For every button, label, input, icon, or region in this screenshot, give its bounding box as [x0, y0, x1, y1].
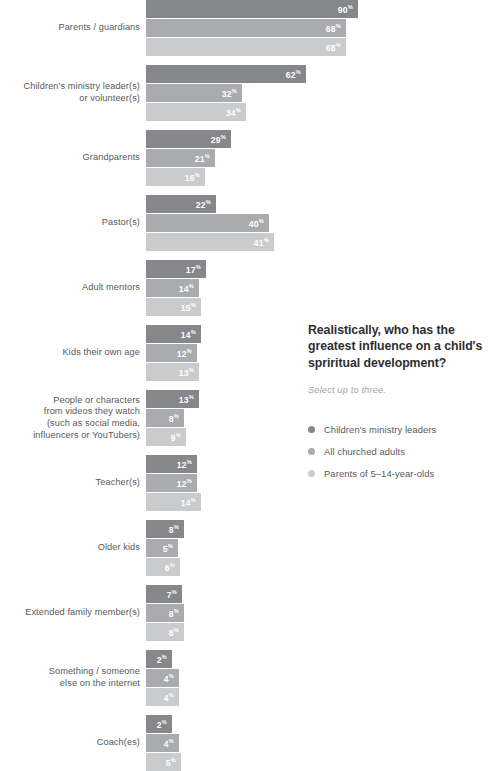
legend-item[interactable]: Parents of 5–14-year-olds — [308, 468, 488, 479]
bar-value-label: 4% — [164, 692, 174, 703]
bar: 15% — [146, 298, 201, 316]
bar-value-label: 13% — [179, 394, 194, 405]
chart-row: Older kids8%5%6% — [0, 520, 498, 576]
bar: 2% — [146, 650, 172, 668]
bar: 12% — [146, 474, 197, 492]
bar: 34% — [146, 103, 246, 121]
row-bars: 7%8%8% — [146, 585, 498, 641]
bar: 13% — [146, 390, 199, 408]
bar: 41% — [146, 233, 274, 251]
chart-row: Grandparents29%21%16% — [0, 130, 498, 186]
category-label-line: Older kids — [0, 542, 140, 554]
bar-value-label: 68% — [326, 23, 341, 34]
bar: 90% — [146, 0, 358, 18]
row-gap — [0, 511, 498, 520]
category-label-line: Adult mentors — [0, 282, 140, 294]
bar-value-label: 29% — [211, 134, 226, 145]
row-bars: 17%14%15% — [146, 260, 498, 316]
chart-row: Parents / guardians90%68%68% — [0, 0, 498, 56]
row-gap — [0, 56, 498, 65]
legend-dot-icon — [308, 448, 315, 455]
bar: 22% — [146, 195, 216, 213]
category-label: Kids their own age — [0, 347, 146, 359]
chart-row: Something / someoneelse on the internet2… — [0, 650, 498, 706]
row-bars: 62%32%34% — [146, 65, 498, 121]
bar: 6% — [146, 558, 180, 576]
bar-value-label: 21% — [195, 153, 210, 164]
bar: 8% — [146, 409, 184, 427]
bar: 16% — [146, 168, 205, 186]
category-label: Children's ministry leader(s)or voluntee… — [0, 81, 146, 104]
bar: 9% — [146, 428, 186, 446]
bar: 8% — [146, 604, 184, 622]
legend-item[interactable]: Children's ministry leaders — [308, 424, 488, 435]
bar: 13% — [146, 363, 199, 381]
bar-value-label: 8% — [169, 524, 179, 535]
bar: 4% — [146, 669, 179, 687]
bar: 21% — [146, 149, 215, 167]
category-label-line: Grandparents — [0, 152, 140, 164]
category-label-line: Parents / guardians — [0, 22, 140, 34]
category-label-line: Pastor(s) — [0, 217, 140, 229]
row-gap — [0, 576, 498, 585]
category-label: Teacher(s) — [0, 477, 146, 489]
bar: 4% — [146, 734, 179, 752]
category-label-line: influencers or YouTubers) — [0, 430, 140, 442]
bar: 68% — [146, 38, 346, 56]
row-gap — [0, 121, 498, 130]
bar: 68% — [146, 19, 346, 37]
category-label: Older kids — [0, 542, 146, 554]
bar: 8% — [146, 623, 184, 641]
legend-label: All churched adults — [324, 446, 405, 457]
bar-value-label: 41% — [254, 237, 269, 248]
chart-row: Pastor(s)22%40%41% — [0, 195, 498, 251]
row-bars: 2%4%5% — [146, 715, 498, 771]
bar-value-label: 34% — [226, 107, 241, 118]
bar: 12% — [146, 344, 197, 362]
category-label-line: Children's ministry leader(s) — [0, 81, 140, 93]
category-label: Extended family member(s) — [0, 607, 146, 619]
category-label-line: People or characters — [0, 395, 140, 407]
category-label: Grandparents — [0, 152, 146, 164]
bar: 29% — [146, 130, 231, 148]
legend-dot-icon — [308, 470, 315, 477]
bar-value-label: 14% — [179, 283, 194, 294]
row-bars: 8%5%6% — [146, 520, 498, 576]
bar: 62% — [146, 65, 306, 83]
category-label: Parents / guardians — [0, 22, 146, 34]
category-label-line: from videos they watch — [0, 406, 140, 418]
row-gap — [0, 186, 498, 195]
chart-legend: Children's ministry leadersAll churched … — [308, 424, 488, 479]
legend-label: Parents of 5–14-year-olds — [324, 468, 434, 479]
bar: 32% — [146, 84, 242, 102]
bar-value-label: 62% — [286, 69, 301, 80]
bar-value-label: 4% — [164, 738, 174, 749]
bar-value-label: 2% — [157, 719, 167, 730]
bar-value-label: 7% — [167, 589, 177, 600]
bar-value-label: 12% — [177, 459, 192, 470]
chart-row: Coach(es)2%4%5% — [0, 715, 498, 771]
category-label: Pastor(s) — [0, 217, 146, 229]
bar-value-label: 2% — [157, 654, 167, 665]
bar-value-label: 5% — [166, 757, 176, 768]
chart-row: Children's ministry leader(s)or voluntee… — [0, 65, 498, 121]
bar-value-label: 17% — [186, 264, 201, 275]
row-bars: 90%68%68% — [146, 0, 498, 56]
bar: 14% — [146, 493, 201, 511]
row-bars: 29%21%16% — [146, 130, 498, 186]
bar: 12% — [146, 455, 197, 473]
category-label: People or charactersfrom videos they wat… — [0, 395, 146, 441]
bar: 5% — [146, 539, 178, 557]
row-bars: 22%40%41% — [146, 195, 498, 251]
category-label: Something / someoneelse on the internet — [0, 666, 146, 689]
row-gap — [0, 706, 498, 715]
legend-item[interactable]: All churched adults — [308, 446, 488, 457]
category-label-line: Coach(es) — [0, 737, 140, 749]
category-label: Coach(es) — [0, 737, 146, 749]
bar: 8% — [146, 520, 184, 538]
bar-value-label: 8% — [169, 413, 179, 424]
category-label-line: Teacher(s) — [0, 477, 140, 489]
legend-label: Children's ministry leaders — [324, 424, 436, 435]
bar-value-label: 15% — [181, 302, 196, 313]
